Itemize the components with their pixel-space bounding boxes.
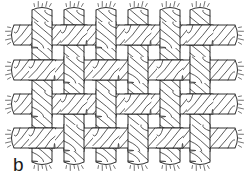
warp-float-r2-c2	[64, 57, 84, 83]
weft-float-r1-c2	[61, 25, 87, 45]
warp-float-r3-c1	[32, 91, 52, 117]
warp-float-r4-c6	[190, 125, 210, 151]
weft-float-r2-c1	[29, 60, 55, 80]
weft-float-r3-c6	[187, 94, 213, 114]
weft-float-r4-c3	[93, 128, 119, 148]
warp-float-r1-c3	[96, 22, 116, 48]
warp-float-r2-c4	[128, 57, 148, 83]
warp-float-r1-c5	[160, 22, 180, 48]
warp-float-r2-c6	[190, 57, 210, 83]
weft-float-r1-c4	[125, 25, 151, 45]
warp-float-r3-c3	[96, 91, 116, 117]
weft-float-r2-c5	[157, 60, 183, 80]
weft-float-r3-c2	[61, 94, 87, 114]
warp-float-r4-c4	[128, 125, 148, 151]
weft-float-r3-c4	[125, 94, 151, 114]
warp-float-r3-c5	[160, 91, 180, 117]
figure-container: b	[0, 0, 248, 185]
figure-label: b	[13, 155, 24, 175]
weft-float-r2-c3	[93, 60, 119, 80]
weft-float-r1-c6	[187, 25, 213, 45]
weave-diagram	[0, 0, 248, 185]
weft-float-r4-c1	[29, 128, 55, 148]
weft-float-r4-c5	[157, 128, 183, 148]
warp-float-r4-c2	[64, 125, 84, 151]
warp-float-r1-c1	[32, 22, 52, 48]
